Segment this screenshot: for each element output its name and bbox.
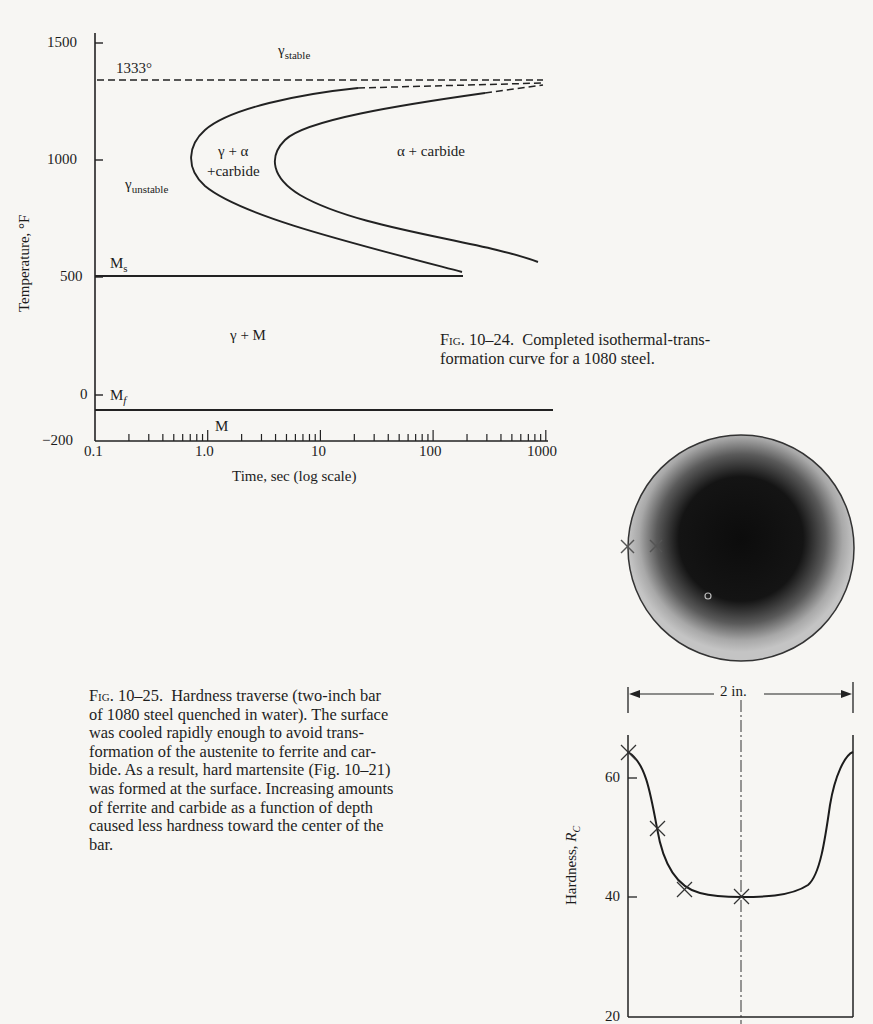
caption-line: of 1080 steel quenched in water). The su… (89, 706, 554, 725)
ytick-40: 40 (605, 888, 620, 905)
caption-line: bar. (89, 836, 554, 855)
caption-fig-10-25: Fig. 10–25. Hardness traverse (two-inch … (89, 687, 554, 854)
caption-line: was formed at the surface. Increasing am… (89, 780, 554, 799)
caption-line: was cooled rapidly enough to avoid trans… (89, 724, 554, 743)
ytick-20: 20 (605, 1008, 620, 1024)
hardness-plot-lines (0, 0, 873, 1024)
caption-line: Fig. 10–25. Hardness traverse (two-inch … (89, 687, 554, 706)
ytick-60: 60 (605, 769, 620, 786)
caption-line: bide. As a result, hard martensite (Fig.… (89, 761, 554, 780)
x-marker-icon (621, 745, 749, 904)
caption-line: caused less hardness toward the center o… (89, 817, 554, 836)
caption-line: of ferrite and carbide as a function of … (89, 799, 554, 818)
caption-line: formation of the austenite to ferrite an… (89, 743, 554, 762)
dimension-label: 2 in. (717, 683, 750, 700)
hardness-ylabel: Hardness, RC (563, 826, 582, 905)
